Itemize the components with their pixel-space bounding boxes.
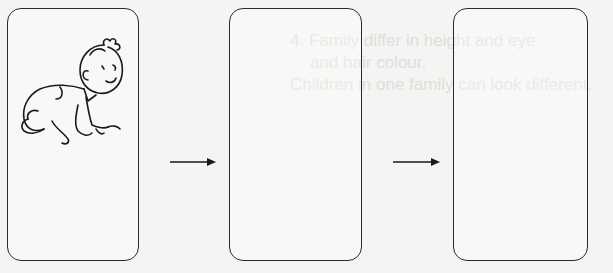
stage-box-2[interactable] — [229, 8, 362, 261]
stage-box-3[interactable] — [453, 8, 588, 261]
arrow-right-icon — [170, 156, 216, 168]
crawling-baby-icon — [8, 25, 133, 150]
arrow-right-icon — [393, 156, 440, 168]
